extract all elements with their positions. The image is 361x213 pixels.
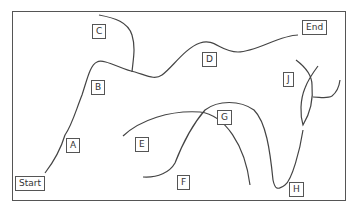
node-label-c: C [92, 24, 106, 39]
diagram-canvas: StartABCDEFGHJEnd [0, 0, 361, 213]
node-label-e: E [135, 137, 149, 152]
curve-curve-j-right [313, 80, 340, 98]
node-label-f: F [177, 175, 190, 190]
node-label-g: G [217, 110, 232, 125]
node-label-j: J [283, 72, 294, 87]
node-label-d: D [202, 52, 217, 67]
node-label-end: End [302, 20, 327, 35]
node-label-h: H [289, 182, 304, 197]
node-label-b: B [91, 80, 105, 95]
curve-curve-j [296, 60, 318, 125]
node-label-a: A [66, 138, 80, 153]
node-label-start: Start [15, 176, 45, 191]
curve-main-route [45, 35, 298, 173]
